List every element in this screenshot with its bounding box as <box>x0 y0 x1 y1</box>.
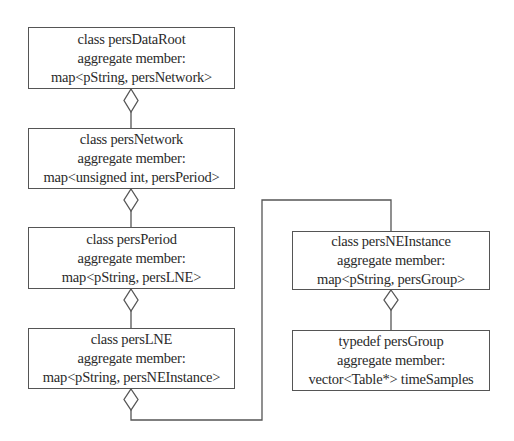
aggregation-diamond-icon <box>124 189 138 211</box>
typedef-box-persGroup: typedef persGroup aggregate member: vect… <box>292 330 490 391</box>
member-label: aggregate member: <box>337 351 445 370</box>
class-title: class persNetwork <box>80 130 183 149</box>
member-label: aggregate member: <box>77 249 185 268</box>
member-type: map<pString, persLNE> <box>62 268 201 287</box>
class-box-persLNE: class persLNE aggregate member: map<pStr… <box>28 328 235 389</box>
member-label: aggregate member: <box>337 251 445 270</box>
class-diagram: class persDataRoot aggregate member: map… <box>0 0 514 441</box>
member-label: aggregate member: <box>77 149 185 168</box>
aggregation-diamond-icon <box>124 389 138 410</box>
class-title: class persDataRoot <box>78 30 186 49</box>
aggregation-diamond-icon <box>124 89 138 112</box>
class-box-persDataRoot: class persDataRoot aggregate member: map… <box>28 27 235 89</box>
member-type: vector<Table*> timeSamples <box>308 370 473 389</box>
class-title: class persLNE <box>91 330 173 349</box>
aggregation-diamond-icon <box>384 290 398 310</box>
class-box-persNEInstance: class persNEInstance aggregate member: m… <box>292 231 490 290</box>
member-type: map<pString, persGroup> <box>317 270 465 289</box>
class-title: class persNEInstance <box>331 232 451 251</box>
member-label: aggregate member: <box>77 49 185 68</box>
class-box-persPeriod: class persPeriod aggregate member: map<p… <box>28 227 235 289</box>
member-label: aggregate member: <box>77 349 185 368</box>
class-title: class persPeriod <box>86 230 177 249</box>
member-type: map<pString, persNEInstance> <box>43 368 220 387</box>
class-box-persNetwork: class persNetwork aggregate member: map<… <box>28 128 235 189</box>
class-title: typedef persGroup <box>339 332 444 351</box>
member-type: map<unsigned int, persPeriod> <box>43 168 219 187</box>
aggregation-diamond-icon <box>124 289 138 311</box>
member-type: map<pString, persNetwork> <box>51 68 212 87</box>
